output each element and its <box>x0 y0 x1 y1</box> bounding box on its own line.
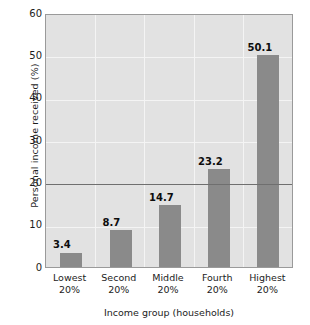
gridline-v-2 <box>144 15 145 267</box>
bar-middle-20[interactable] <box>159 205 181 267</box>
x-tick-label-lowest: Lowest 20% <box>45 272 94 296</box>
x-tick-line2-fourth: 20% <box>193 284 242 296</box>
plot-area: 3.4 8.7 14.7 23.2 50.1 <box>45 14 293 268</box>
bar-highest-20[interactable] <box>257 55 279 267</box>
gridline-h-40 <box>46 100 292 101</box>
x-tick-label-second: Second 20% <box>94 272 143 296</box>
x-tick-line1-highest: Highest <box>242 272 293 284</box>
x-axis-title: Income group (households) <box>45 307 293 318</box>
x-tick-label-highest: Highest 20% <box>242 272 293 296</box>
bar-second-20[interactable] <box>110 230 132 267</box>
gridline-h-50 <box>46 57 292 58</box>
x-tick-line2-second: 20% <box>94 284 143 296</box>
y-tick-label-20: 20 <box>18 178 42 188</box>
bar-chart-figure: Personal income received (%) 60 50 40 30… <box>0 0 310 325</box>
y-tick-label-30: 30 <box>18 136 42 146</box>
gridline-v-1 <box>95 15 96 267</box>
bar-value-label-fourth: 23.2 <box>198 157 223 167</box>
x-tick-line1-fourth: Fourth <box>193 272 242 284</box>
bar-value-label-lowest: 3.4 <box>53 240 71 250</box>
bar-value-label-middle: 14.7 <box>149 193 174 203</box>
reference-line-20 <box>46 184 292 185</box>
y-tick-label-40: 40 <box>18 93 42 103</box>
gridline-v-4 <box>243 15 244 267</box>
y-tick-label-0: 0 <box>18 263 42 273</box>
gridline-v-3 <box>194 15 195 267</box>
x-tick-line2-highest: 20% <box>242 284 293 296</box>
x-tick-line1-lowest: Lowest <box>45 272 94 284</box>
x-tick-label-fourth: Fourth 20% <box>193 272 242 296</box>
bar-value-label-highest: 50.1 <box>248 43 273 53</box>
x-tick-line2-lowest: 20% <box>45 284 94 296</box>
y-tick-label-10: 10 <box>18 220 42 230</box>
bar-lowest-20[interactable] <box>60 253 82 267</box>
x-tick-line2-middle: 20% <box>143 284 192 296</box>
bar-value-label-second: 8.7 <box>103 218 121 228</box>
y-tick-label-60: 60 <box>18 9 42 19</box>
gridline-h-30 <box>46 142 292 143</box>
x-tick-label-middle: Middle 20% <box>143 272 192 296</box>
plot-inner: 3.4 8.7 14.7 23.2 50.1 <box>46 15 292 267</box>
y-tick-label-50: 50 <box>18 51 42 61</box>
x-tick-line1-middle: Middle <box>143 272 192 284</box>
x-tick-line1-second: Second <box>94 272 143 284</box>
